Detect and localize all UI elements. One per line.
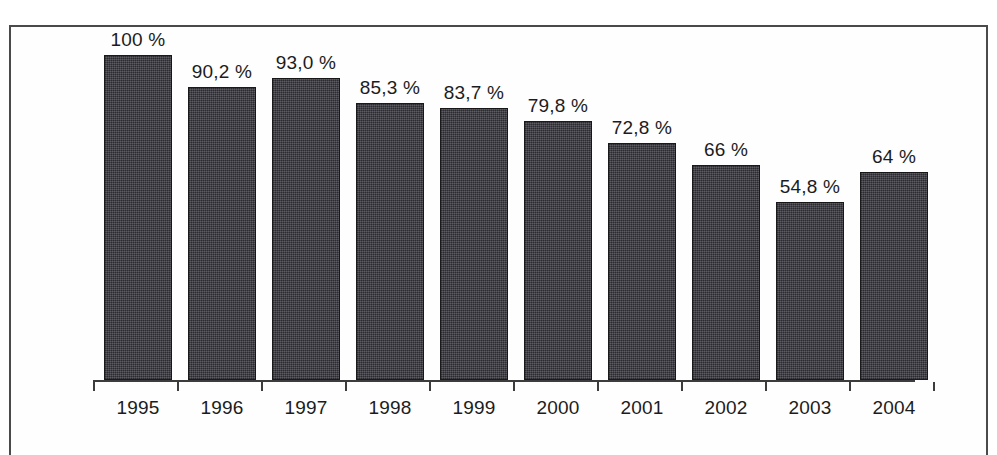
category-label-2002: 2002 (684, 397, 768, 419)
axis-tick (513, 382, 515, 391)
bar[interactable] (524, 121, 592, 380)
axis-tick (261, 382, 263, 391)
axis-tick (681, 382, 683, 391)
category-label-1996: 1996 (180, 397, 264, 419)
bar[interactable] (608, 143, 676, 380)
category-label-1997: 1997 (264, 397, 348, 419)
category-label-2003: 2003 (768, 397, 852, 419)
category-label-1995: 1995 (96, 397, 180, 419)
bar[interactable] (272, 78, 340, 380)
bar[interactable] (440, 108, 508, 380)
chart-frame: 100 %90,2 %93,0 %85,3 %83,7 %79,8 %72,8 … (9, 25, 988, 455)
bar[interactable] (104, 55, 172, 380)
bar-value-label: 100 % (111, 29, 166, 51)
bar-value-label: 83,7 % (444, 82, 504, 104)
bar-value-label: 85,3 % (360, 77, 420, 99)
bar[interactable] (188, 87, 256, 380)
axis-tick (345, 382, 347, 391)
bar-value-label: 79,8 % (528, 95, 588, 117)
category-label-1999: 1999 (432, 397, 516, 419)
axis-tick (429, 382, 431, 391)
bar-value-label: 90,2 % (192, 61, 252, 83)
bar[interactable] (776, 202, 844, 380)
axis-tick (93, 382, 95, 391)
axis-tick (849, 382, 851, 391)
bar[interactable] (356, 103, 424, 380)
bar[interactable] (692, 165, 760, 380)
category-label-2001: 2001 (600, 397, 684, 419)
plot-area: 100 %90,2 %93,0 %85,3 %83,7 %79,8 %72,8 … (93, 55, 923, 380)
axis-tick (597, 382, 599, 391)
bar-value-label: 72,8 % (612, 117, 672, 139)
bar[interactable] (860, 172, 928, 380)
axis-tick (765, 382, 767, 391)
bar-value-label: 93,0 % (276, 52, 336, 74)
axis-tick (933, 382, 935, 391)
bar-value-label: 66 % (704, 139, 748, 161)
category-label-2000: 2000 (516, 397, 600, 419)
category-axis-line (93, 380, 915, 382)
bar-value-label: 64 % (872, 146, 916, 168)
category-label-2004: 2004 (852, 397, 936, 419)
bar-value-label: 54,8 % (780, 176, 840, 198)
category-label-1998: 1998 (348, 397, 432, 419)
axis-tick (177, 382, 179, 391)
